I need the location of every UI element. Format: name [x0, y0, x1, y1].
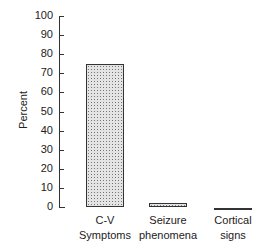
- y-tick: [59, 92, 64, 93]
- y-tick-label: 100: [29, 9, 53, 21]
- y-tick-label: 90: [29, 28, 53, 40]
- y-tick: [59, 131, 64, 132]
- y-tick-label: 50: [29, 105, 53, 117]
- y-tick-label: 10: [29, 181, 53, 193]
- y-tick-label: 40: [29, 124, 53, 136]
- y-tick: [59, 150, 64, 151]
- y-tick-label: 80: [29, 47, 53, 59]
- y-tick: [59, 35, 64, 36]
- y-tick-label: 20: [29, 162, 53, 174]
- y-tick-label: 0: [29, 200, 53, 212]
- y-tick: [59, 54, 64, 55]
- bar: [214, 208, 252, 210]
- bar-chart: Percent 0102030405060708090100 C-VSympto…: [0, 0, 267, 250]
- category-label: Corticalsigns: [198, 213, 267, 243]
- y-tick: [59, 16, 64, 17]
- y-tick: [59, 112, 64, 113]
- y-axis-label: Percent: [17, 91, 29, 129]
- y-tick: [59, 207, 64, 208]
- category-label: Seizurephenomena: [133, 213, 203, 243]
- y-tick-label: 30: [29, 143, 53, 155]
- category-label: C-VSymptoms: [70, 213, 140, 243]
- bar: [149, 203, 187, 207]
- bar: [86, 64, 124, 207]
- y-tick: [59, 188, 64, 189]
- y-tick-label: 60: [29, 85, 53, 97]
- y-tick: [59, 73, 64, 74]
- y-tick: [59, 169, 64, 170]
- y-tick-label: 70: [29, 66, 53, 78]
